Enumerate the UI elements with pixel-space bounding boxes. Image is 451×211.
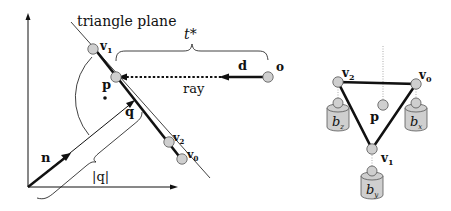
right-angle-arc bbox=[75, 57, 92, 135]
triangle-plane-label: triangle plane bbox=[77, 13, 176, 29]
q-magnitude-brace bbox=[37, 112, 142, 199]
right-v0-label: v0 bbox=[418, 68, 432, 84]
v0-label: v0 bbox=[186, 148, 198, 163]
direction-arrowhead-icon bbox=[219, 74, 229, 81]
weight-by: by bbox=[361, 166, 383, 199]
q-label: q bbox=[125, 104, 134, 119]
q-magnitude-label: |q| bbox=[92, 169, 109, 184]
point-dot bbox=[103, 96, 107, 100]
right-point-p bbox=[378, 100, 388, 110]
t-star-label: t* bbox=[184, 26, 197, 42]
v2-label: v2 bbox=[172, 131, 184, 146]
right-p-label: p bbox=[370, 109, 379, 124]
left-diagram: triangle plane v1 t* p ray d o q n |q| v… bbox=[26, 13, 285, 199]
o-label: o bbox=[276, 60, 284, 74]
vertex-v0 bbox=[177, 154, 187, 164]
intersection-point-p bbox=[111, 72, 121, 82]
ray-triangle-intersection-figure: triangle plane v1 t* p ray d o q n |q| v… bbox=[0, 0, 451, 211]
weight-bx: bx bbox=[405, 98, 427, 131]
right-vertex-v1 bbox=[367, 144, 377, 154]
x-axis-arrow-icon bbox=[170, 185, 178, 190]
weight-bz: bz bbox=[327, 98, 349, 131]
p-label: p bbox=[102, 77, 111, 92]
vertex-v1 bbox=[88, 44, 98, 54]
right-v2-label: v2 bbox=[341, 66, 355, 82]
right-v1-label: v1 bbox=[380, 151, 394, 167]
origin-o bbox=[263, 72, 273, 82]
d-label: d bbox=[238, 58, 247, 73]
y-axis-arrow-icon bbox=[26, 13, 31, 20]
v1-label: v1 bbox=[99, 39, 113, 55]
ray-label: ray bbox=[183, 81, 205, 96]
n-label: n bbox=[41, 150, 51, 165]
right-diagram: bz bx by v2 v0 v1 p bbox=[327, 46, 432, 199]
